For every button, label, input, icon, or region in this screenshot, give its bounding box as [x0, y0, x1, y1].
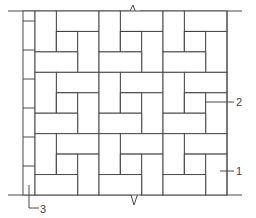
brick-horizontal-bottom [163, 113, 206, 133]
callout-label-2: 2 [236, 96, 242, 108]
hatched-insert [184, 154, 205, 174]
brick-horizontal-bottom [35, 113, 78, 133]
brick-horizontal-top [56, 134, 99, 154]
brick-vertical-left [163, 72, 184, 113]
brick-vertical-left [35, 11, 56, 52]
brick-vertical-right [78, 154, 99, 195]
hatched-insert [184, 31, 205, 51]
hatched-insert [56, 93, 77, 113]
brick-vertical-right [78, 93, 99, 134]
brick-horizontal-top [120, 134, 163, 154]
brick-horizontal-top [120, 72, 163, 92]
brick-vertical-right [206, 93, 227, 134]
brick-horizontal-bottom [163, 175, 206, 195]
callout-label-3: 3 [40, 203, 46, 215]
border-strip [23, 11, 35, 195]
brick-horizontal-top [56, 11, 99, 31]
callout-label-1: 1 [236, 165, 242, 177]
brick-vertical-left [99, 72, 120, 113]
brick-vertical-right [78, 31, 99, 72]
paving-diagram: 1 2 3 [0, 0, 256, 218]
hatched-insert [56, 31, 77, 51]
brick-horizontal-top [56, 72, 99, 92]
hatched-insert [120, 31, 141, 51]
brick-horizontal-bottom [99, 52, 142, 72]
brick-vertical-left [163, 134, 184, 175]
brick-horizontal-top [120, 11, 163, 31]
hatched-insert [184, 93, 205, 113]
brick-vertical-right [142, 154, 163, 195]
brick-horizontal-top [184, 134, 227, 154]
brick-vertical-left [99, 134, 120, 175]
brick-vertical-right [206, 31, 227, 72]
brick-horizontal-bottom [99, 113, 142, 133]
brick-horizontal-bottom [99, 175, 142, 195]
brick-horizontal-bottom [35, 52, 78, 72]
brick-vertical-right [142, 93, 163, 134]
brick-vertical-right [142, 31, 163, 72]
border-strip-outline [23, 11, 35, 195]
paving-tiles [35, 11, 227, 195]
brick-vertical-left [99, 11, 120, 52]
hatched-insert [56, 154, 77, 174]
brick-vertical-left [163, 11, 184, 52]
brick-vertical-left [35, 134, 56, 175]
brick-horizontal-top [184, 11, 227, 31]
brick-horizontal-top [184, 72, 227, 92]
brick-horizontal-bottom [163, 52, 206, 72]
brick-vertical-left [35, 72, 56, 113]
brick-vertical-right [206, 154, 227, 195]
hatched-insert [120, 93, 141, 113]
brick-horizontal-bottom [35, 175, 78, 195]
hatched-insert [120, 154, 141, 174]
